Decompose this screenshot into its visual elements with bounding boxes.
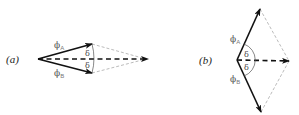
phi-b-label: ϕB (230, 74, 240, 85)
phi-b-label: ϕB (54, 68, 64, 79)
delta-upper-label: δ (85, 49, 90, 58)
resultant-vector-b (237, 60, 289, 61)
delta-lower-label: δ (244, 63, 249, 72)
construction-line-lower (92, 59, 146, 73)
panel-b: (b) ϕA ϕB δ δ (199, 9, 289, 112)
vector-a-upper (38, 44, 92, 59)
phasor-diagram: (a) ϕA ϕB δ δ (b) ϕA ϕB δ δ (0, 0, 299, 115)
panel-label-b: (b) (199, 54, 212, 67)
panel-a: (a) ϕA ϕB δ δ (6, 40, 148, 79)
phi-a-label: ϕA (230, 34, 240, 45)
phi-a-label: ϕA (54, 40, 64, 51)
delta-lower-label: δ (85, 61, 90, 70)
vector-b-lower (237, 60, 261, 112)
panel-label-a: (a) (6, 53, 19, 66)
delta-upper-label: δ (244, 50, 249, 59)
construction-line-upper (260, 9, 289, 61)
construction-line-lower (261, 61, 289, 112)
construction-line-upper (92, 44, 146, 59)
vector-b-lower (38, 59, 92, 73)
